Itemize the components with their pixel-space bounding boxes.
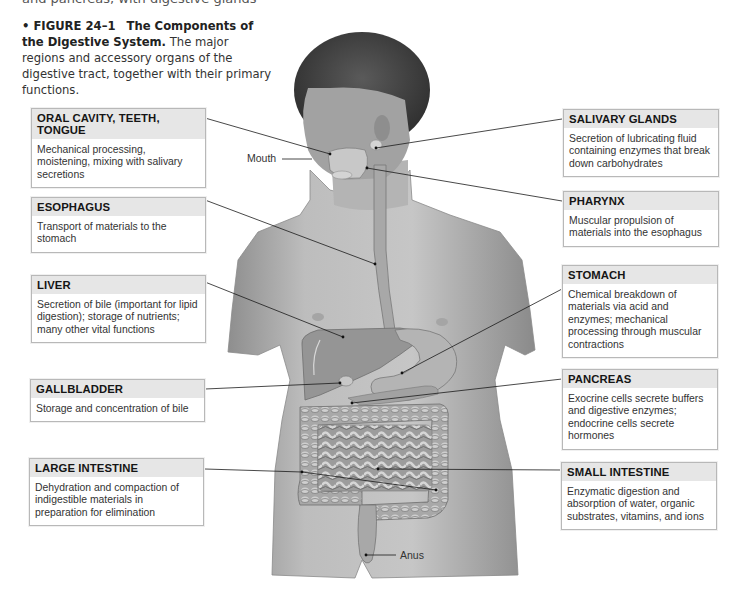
oral-cavity-description: Mechanical processing, moistening, mixin… — [32, 139, 205, 187]
stomach-title: STOMACH — [563, 266, 717, 284]
small-intestine-box: SMALL INTESTINE Enzymatic digestion and … — [561, 462, 717, 530]
rectum-organ — [358, 505, 377, 563]
oral-cavity-box: ORAL CAVITY, TEETH, TONGUE Mechanical pr… — [31, 108, 206, 188]
salivary-glands-box: SALIVARY GLANDS Secretion of lubricating… — [563, 109, 719, 177]
pancreas-title: PANCREAS — [563, 370, 717, 388]
gallbladder-description: Storage and concentration of bile — [31, 398, 204, 421]
liver-box: LIVER Secretion of bile (important for l… — [31, 275, 206, 343]
anus-label: Anus — [400, 549, 424, 561]
esophagus-description: Transport of materials to the stomach — [32, 216, 205, 252]
small-intestine-description: Enzymatic digestion and absorption of wa… — [562, 481, 716, 529]
salivary-glands-description: Secretion of lubricating fluid containin… — [564, 128, 718, 176]
gallbladder-organ — [339, 376, 353, 386]
pharynx-description: Muscular propulsion of materials into th… — [564, 210, 718, 246]
esophagus-box: ESOPHAGUS Transport of materials to the … — [31, 197, 206, 253]
large-intestine-box: LARGE INTESTINE Dehydration and compacti… — [29, 458, 204, 526]
small-intestine-organ — [318, 425, 432, 491]
pharynx-box: PHARYNX Muscular propulsion of materials… — [563, 191, 719, 247]
stomach-box: STOMACH Chemical breakdown of materials … — [562, 265, 718, 358]
large-intestine-title: LARGE INTESTINE — [30, 459, 203, 477]
esophagus-title: ESOPHAGUS — [32, 198, 205, 216]
pancreas-box: PANCREAS Exocrine cells secrete buffers … — [562, 369, 718, 450]
oral-cavity-title: ORAL CAVITY, TEETH, TONGUE — [32, 109, 205, 139]
liver-title: LIVER — [32, 276, 205, 294]
small-intestine-title: SMALL INTESTINE — [562, 463, 716, 481]
liver-description: Secretion of bile (important for lipid d… — [32, 294, 205, 342]
pancreas-description: Exocrine cells secrete buffers and diges… — [563, 388, 717, 449]
gallbladder-box: GALLBLADDER Storage and concentration of… — [30, 379, 205, 422]
pharynx-title: PHARYNX — [564, 192, 718, 210]
mouth-label: Mouth — [247, 152, 276, 164]
head — [294, 32, 430, 180]
stomach-description: Chemical breakdown of materials via acid… — [563, 284, 717, 357]
gallbladder-title: GALLBLADDER — [31, 380, 204, 398]
large-intestine-description: Dehydration and compaction of indigestib… — [30, 477, 203, 525]
salivary-glands-title: SALIVARY GLANDS — [564, 110, 718, 128]
